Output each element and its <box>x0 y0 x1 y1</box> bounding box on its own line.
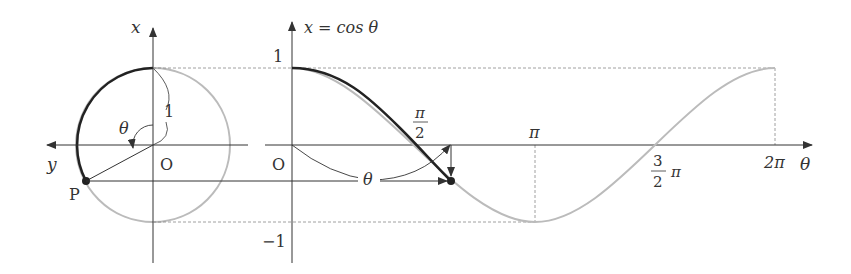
circle-x-axis-label: x <box>131 17 141 37</box>
y-tick-neg1: −1 <box>262 232 286 251</box>
graph-y-axis-label: x = cos θ <box>304 18 378 37</box>
tick-pi: π <box>528 123 540 142</box>
circle-y-axis-label: y <box>46 154 57 174</box>
tick-three-half-pi-suffix: π <box>670 163 682 181</box>
tick-half-pi-denominator: 2 <box>415 124 425 142</box>
graph-origin-label: O <box>272 155 285 174</box>
highlighted-arc <box>77 68 153 181</box>
unit-circle-panel: x y O 1 θ P <box>46 17 248 263</box>
y-tick-1: 1 <box>273 47 283 66</box>
cosine-unit-circle-diagram: x y O 1 θ P x = cos θ O 1 −1 π 2 π <box>0 0 851 274</box>
graph-theta-axis-label: θ <box>800 154 810 174</box>
circle-angle-label: θ <box>119 119 129 138</box>
circle-origin-label: O <box>160 155 173 174</box>
arc-theta-label: θ <box>363 170 373 189</box>
tick-half-pi-numerator: π <box>414 104 426 122</box>
tick-three-half-pi-numerator: 3 <box>653 152 663 170</box>
cosine-curve-highlight <box>292 68 451 181</box>
point-p-label: P <box>69 185 80 204</box>
graph-point <box>447 177 455 185</box>
radius-op <box>86 145 153 181</box>
tick-two-pi: 2π <box>763 153 785 172</box>
cosine-graph-panel: x = cos θ O 1 −1 π 2 π 3 2 π 2π θ θ <box>262 18 812 263</box>
tick-three-half-pi-denominator: 2 <box>653 173 663 191</box>
radius-label: 1 <box>164 102 174 121</box>
